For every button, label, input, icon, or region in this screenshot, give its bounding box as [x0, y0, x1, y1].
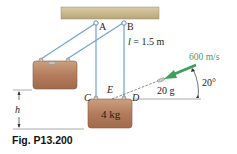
- label-length: l = 1.5 m: [128, 37, 164, 47]
- velocity-arrow-head: [164, 70, 177, 79]
- block-hook-c: [94, 96, 98, 100]
- pivot-b: [122, 21, 126, 25]
- pivot-a: [94, 21, 98, 25]
- label-h: h: [15, 105, 20, 115]
- label-a: A: [99, 22, 106, 32]
- label-c: C: [84, 93, 91, 103]
- figure-caption: Fig. P13.200: [12, 134, 73, 146]
- bullet: [157, 77, 166, 83]
- cord-swung-b: [67, 23, 123, 59]
- label-b: B: [127, 22, 134, 32]
- length-variable: l: [128, 36, 131, 47]
- angle-arc: [193, 69, 198, 98]
- label-velocity: 600 m/s: [189, 53, 219, 63]
- length-value: = 1.5 m: [133, 36, 164, 47]
- label-block-mass: 4 kg: [101, 108, 120, 120]
- label-d: D: [132, 93, 139, 103]
- block-swung-hook-left: [39, 58, 43, 62]
- label-e: E: [107, 85, 113, 95]
- embedded-bullet: [48, 62, 56, 65]
- block-swung: [33, 61, 77, 89]
- h-dim-arrow-bottom: [18, 124, 21, 128]
- block-hook-d: [122, 96, 126, 100]
- label-bullet-mass: 20 g: [157, 86, 175, 96]
- label-angle: 20°: [202, 78, 216, 88]
- block-swung-hook-right: [66, 58, 70, 62]
- ceiling-support: [61, 7, 159, 19]
- h-dim-arrow-top: [18, 91, 21, 95]
- cord-swung-a: [41, 23, 96, 59]
